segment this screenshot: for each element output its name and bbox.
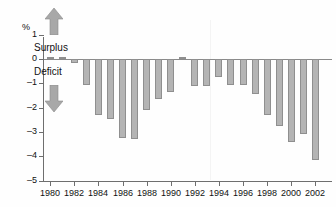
x-axis-line (43, 181, 332, 182)
bar (264, 59, 271, 115)
x-tick-label: 2002 (300, 188, 330, 198)
bar (227, 59, 234, 85)
y-tick-label-wrap: 1 (0, 30, 37, 39)
bar (312, 59, 319, 160)
bar (252, 59, 259, 94)
bar (47, 57, 54, 59)
x-tick (147, 181, 148, 186)
bar (288, 59, 295, 142)
bar (276, 59, 283, 126)
x-tick (267, 181, 268, 186)
bar (203, 59, 210, 86)
y-tick-label: –3 (17, 127, 37, 136)
x-tick (219, 181, 220, 186)
bar (119, 59, 126, 138)
y-tick-label: –1 (17, 78, 37, 87)
x-tick (171, 181, 172, 186)
down-arrow-icon (45, 85, 63, 112)
y-tick-label: –2 (17, 103, 37, 112)
y-tick-label-wrap: –3 (0, 127, 37, 136)
bar (95, 59, 102, 115)
bar (240, 59, 247, 85)
y-tick (39, 108, 44, 109)
bar (155, 59, 162, 99)
budget-balance-chart: 10–1–2–3–4–5 198019821984198619881990199… (0, 0, 336, 207)
y-tick (39, 59, 44, 60)
bar (107, 59, 114, 119)
bar (167, 59, 174, 92)
deficit-label: Deficit (34, 66, 62, 77)
up-arrow-icon (45, 8, 63, 35)
y-tick (39, 83, 44, 84)
y-tick-label-wrap: –1 (0, 78, 37, 87)
x-tick (74, 181, 75, 186)
bar (71, 59, 78, 63)
y-tick (39, 35, 44, 36)
y-tick (39, 132, 44, 133)
x-tick (98, 181, 99, 186)
bar (191, 59, 198, 86)
bar (300, 59, 307, 134)
bar (131, 59, 138, 139)
x-tick (315, 181, 316, 186)
bar (83, 59, 90, 85)
x-tick (243, 181, 244, 186)
x-tick (195, 181, 196, 186)
y-tick (39, 181, 44, 182)
surplus-label: Surplus (34, 42, 68, 53)
y-tick-label-wrap: –5 (0, 176, 37, 185)
y-tick-label: –5 (17, 176, 37, 185)
x-tick (291, 181, 292, 186)
y-axis-unit-label: % (22, 23, 30, 32)
scan-artifact-line (210, 20, 211, 180)
y-tick-label-wrap: –4 (0, 151, 37, 160)
y-tick-label-wrap: 0 (0, 54, 37, 63)
y-tick (39, 156, 44, 157)
bar (215, 59, 222, 77)
y-tick-label-wrap: –2 (0, 103, 37, 112)
x-tick (123, 181, 124, 186)
bar (143, 59, 150, 110)
y-tick-label: –4 (17, 151, 37, 160)
x-tick (50, 181, 51, 186)
y-tick-label: 0 (17, 54, 37, 63)
bar (179, 57, 186, 59)
bar (59, 57, 66, 59)
